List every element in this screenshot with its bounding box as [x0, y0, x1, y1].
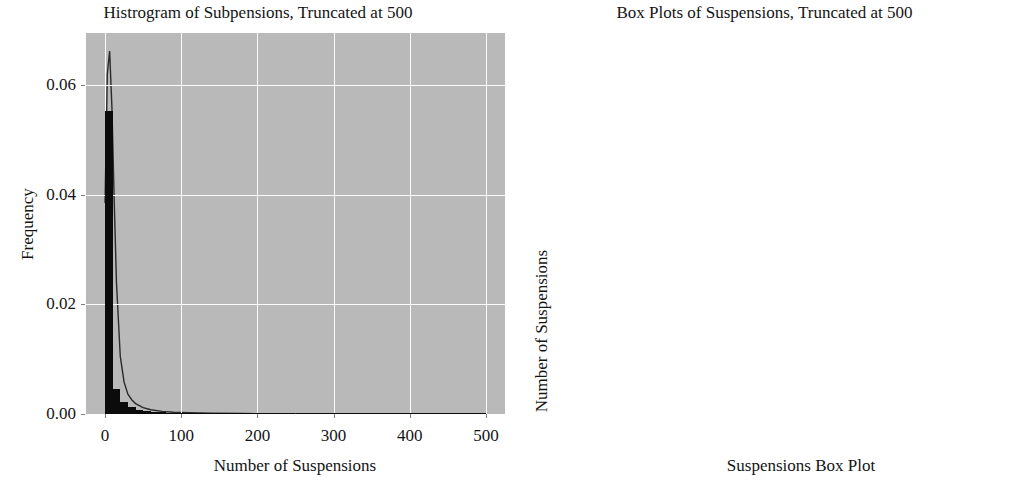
boxplot-y-axis-label: Number of Suspensions [532, 250, 552, 412]
x-tick-label: 400 [397, 426, 423, 446]
histogram-bar [379, 413, 387, 414]
histogram-bar [433, 413, 441, 414]
histogram-bar [120, 402, 128, 414]
histogram-bar [227, 413, 235, 414]
x-tick-mark [105, 414, 106, 418]
histogram-bar [334, 413, 342, 414]
histogram-bar [280, 413, 288, 414]
histogram-bar [128, 407, 136, 414]
histogram-panel: Histrogram of Subpensions, Truncated at … [0, 0, 516, 491]
histogram-bar [273, 413, 281, 414]
x-tick-mark [181, 414, 182, 418]
kde-curve [86, 33, 505, 414]
histogram-bar [265, 413, 273, 414]
histogram-y-axis-label: Frequency [18, 188, 38, 260]
histogram-bar [326, 413, 334, 414]
histogram-bar [196, 413, 204, 414]
histogram-bar [166, 413, 174, 414]
y-tick-label: 0.06 [46, 75, 76, 95]
gridline-horizontal [86, 195, 505, 196]
histogram-title: Histrogram of Subpensions, Truncated at … [10, 2, 506, 24]
x-tick-label: 0 [101, 426, 110, 446]
histogram-plot-area [86, 33, 505, 414]
histogram-bar [151, 412, 159, 414]
histogram-bar [478, 413, 486, 414]
y-tick-label: 0.00 [46, 404, 76, 424]
histogram-bar [395, 413, 403, 414]
histogram-bar [318, 413, 326, 414]
histogram-bar [349, 413, 357, 414]
histogram-bar [387, 413, 395, 414]
y-tick-label: 0.02 [46, 294, 76, 314]
boxplot-title: Box Plots of Suspensions, Truncated at 5… [516, 2, 1013, 24]
y-tick-mark [81, 195, 85, 196]
histogram-bar [372, 413, 380, 414]
x-tick-label: 500 [473, 426, 499, 446]
gridline-horizontal [86, 304, 505, 305]
histogram-bar [235, 413, 243, 414]
y-tick-label: 0.04 [46, 185, 76, 205]
boxplot-panel: Box Plots of Suspensions, Truncated at 5… [516, 0, 1013, 491]
histogram-bar [455, 413, 463, 414]
x-tick-mark [334, 414, 335, 418]
histogram-bar [311, 413, 319, 414]
gridline-horizontal [86, 85, 505, 86]
histogram-bar [219, 413, 227, 414]
boxplot-x-axis-label: Suspensions Box Plot [727, 456, 875, 476]
histogram-bar [341, 413, 349, 414]
histogram-bar [410, 413, 418, 414]
histogram-bar [402, 413, 410, 414]
histogram-bar [356, 413, 364, 414]
kde-line [105, 51, 486, 414]
histogram-bar [189, 413, 197, 414]
histogram-bar [113, 389, 121, 414]
histogram-bar [158, 412, 166, 414]
histogram-bar [471, 413, 479, 414]
histogram-bar [181, 413, 189, 414]
histogram-bar [440, 413, 448, 414]
x-tick-mark [257, 414, 258, 418]
figure-canvas: Histrogram of Subpensions, Truncated at … [0, 0, 1013, 491]
gridline-vertical [181, 33, 182, 414]
gridline-vertical [486, 33, 487, 414]
histogram-bar [296, 413, 304, 414]
histogram-bar [250, 413, 258, 414]
x-tick-label: 100 [168, 426, 194, 446]
histogram-bar [463, 413, 471, 414]
histogram-bar [257, 413, 265, 414]
y-tick-mark [81, 304, 85, 305]
histogram-bar [136, 410, 144, 414]
gridline-vertical [410, 33, 411, 414]
histogram-bar [174, 413, 182, 414]
histogram-bar [204, 413, 212, 414]
y-tick-mark [81, 85, 85, 86]
histogram-bar [143, 411, 151, 414]
histogram-bar [105, 111, 113, 414]
histogram-bar [448, 413, 456, 414]
gridline-vertical [257, 33, 258, 414]
x-tick-label: 200 [245, 426, 271, 446]
x-tick-mark [486, 414, 487, 418]
histogram-bar [364, 413, 372, 414]
histogram-x-axis-label: Number of Suspensions [214, 456, 376, 476]
gridline-vertical [334, 33, 335, 414]
histogram-bar [417, 413, 425, 414]
histogram-bar [425, 413, 433, 414]
y-tick-mark [81, 414, 85, 415]
x-tick-label: 300 [321, 426, 347, 446]
histogram-bar [212, 413, 220, 414]
x-tick-mark [410, 414, 411, 418]
histogram-bar [242, 413, 250, 414]
histogram-bar [288, 413, 296, 414]
histogram-bar [303, 413, 311, 414]
